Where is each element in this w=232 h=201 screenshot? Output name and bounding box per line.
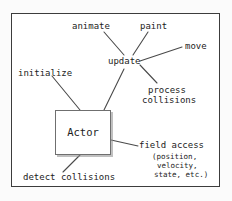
diagram-canvas: animate paint move update process collis… <box>0 0 232 201</box>
field-access-detail-line1: (position, <box>152 152 197 161</box>
node-label-process-collisions-line2[interactable]: collisions <box>142 95 196 105</box>
actor-node-label: Actor <box>55 126 111 138</box>
node-label-process-collisions-line1[interactable]: process <box>148 85 186 95</box>
node-label-move[interactable]: move <box>185 41 207 51</box>
node-label-detect-collisions[interactable]: detect collisions <box>23 172 115 182</box>
node-label-animate[interactable]: animate <box>72 21 110 31</box>
field-access-detail-line2: velocity, <box>157 161 198 170</box>
node-label-paint[interactable]: paint <box>140 21 167 31</box>
field-access-detail-line3: state, etc.) <box>154 170 208 179</box>
node-label-update[interactable]: update <box>108 56 141 66</box>
node-label-initialize[interactable]: initialize <box>18 68 72 78</box>
node-label-field-access[interactable]: field access <box>139 140 204 150</box>
